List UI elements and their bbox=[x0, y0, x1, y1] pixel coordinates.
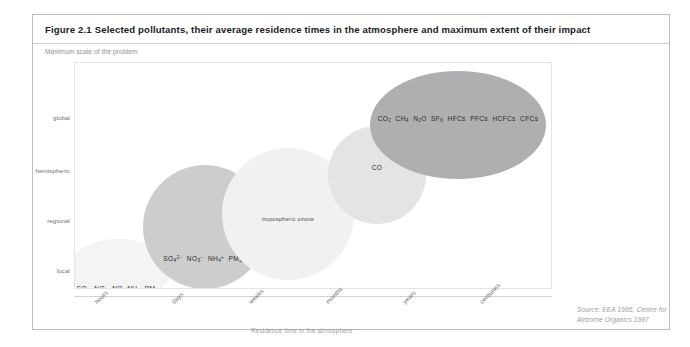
caption-divider bbox=[33, 43, 669, 44]
y-axis: global hemispheric regional local bbox=[33, 62, 74, 289]
plot-area: SO2 NO2 NO NH3 PM10 SO42− NO3− NH4+ PM2.… bbox=[74, 62, 552, 289]
bubble-label-regional-secondary-aerosols: SO42− NO3− NH4+ PM2.5 bbox=[163, 255, 246, 263]
y-tick-hemispheric: hemispheric bbox=[36, 167, 70, 174]
bubble-label-greenhouse-gases: CO2 CH4 N2O SF6 HFCs PFCs HCFCs CFCs bbox=[378, 115, 539, 123]
bubble-greenhouse-gases: CO2 CH4 N2O SF6 HFCs PFCs HCFCs CFCs bbox=[370, 71, 546, 179]
source-note: Source: EEA 1995, Centre for Airborne Or… bbox=[577, 305, 677, 325]
bubble-label-local-pollutants: SO2 NO2 NO NH3 PM10 bbox=[77, 285, 162, 289]
bubble-label-carbon-monoxide: CO bbox=[372, 164, 383, 171]
bubble-label-tropospheric-ozone: tropospheric ozone bbox=[262, 216, 314, 222]
x-tick-days: days bbox=[170, 290, 184, 304]
y-tick-regional: regional bbox=[47, 217, 70, 224]
y-tick-global: global bbox=[53, 114, 70, 121]
y-axis-title: Maximum scale of the problem bbox=[45, 48, 138, 55]
figure-caption: Figure 2.1 Selected pollutants, their av… bbox=[45, 24, 590, 35]
figure-container: Figure 2.1 Selected pollutants, their av… bbox=[32, 14, 670, 330]
y-tick-local: local bbox=[57, 267, 70, 274]
x-axis-title: Residence time in the atmosphere bbox=[251, 327, 353, 334]
